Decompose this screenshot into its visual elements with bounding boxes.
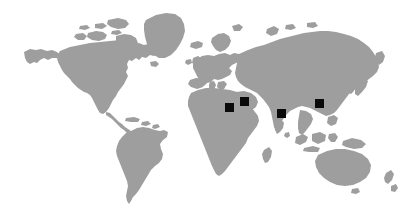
map-marker-east-asia[interactable] [315, 99, 324, 108]
map-marker-south-asia[interactable] [277, 109, 286, 118]
marker-layer [0, 0, 416, 221]
world-map-figure [0, 0, 416, 221]
map-marker-north-africa[interactable] [225, 103, 234, 112]
map-marker-middle-east[interactable] [240, 97, 249, 106]
